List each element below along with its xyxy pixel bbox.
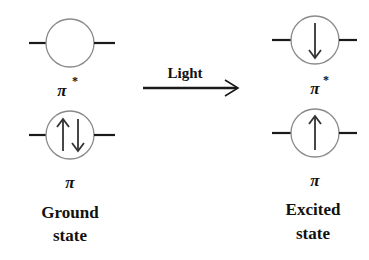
pi-symbol: π [310, 79, 319, 98]
ground-pi-label: π [60, 174, 80, 191]
excited-pi-orbital [272, 109, 357, 157]
ground-pi-orbital [29, 111, 115, 159]
electron-spin-down-icon [309, 23, 321, 58]
pi-symbol: π [57, 81, 66, 100]
excited-state-title-line2: state [273, 225, 353, 242]
orbital-circle [46, 111, 94, 159]
ground-state-title-line2: state [30, 227, 110, 244]
electron-spin-down-icon [72, 119, 84, 151]
excited-pi-label: π [305, 172, 325, 189]
light-arrow [143, 80, 238, 96]
ground-pi-star-superscript: * [72, 75, 78, 87]
electron-spin-up-icon [57, 119, 69, 151]
excited-pi-star-superscript: * [323, 74, 329, 86]
ground-state-title-line1: Ground [30, 204, 110, 221]
ground-pi-star-label: π [52, 82, 72, 99]
light-label: Light [150, 66, 220, 81]
electron-spin-up-icon [309, 116, 321, 150]
excited-state-title-line1: Excited [273, 201, 353, 218]
excited-pi-star-orbital [272, 16, 357, 64]
orbital-diagram: Light π * π Ground state π * π Excited s… [0, 0, 369, 260]
ground-pi-star-orbital [29, 19, 115, 67]
excited-pi-star-label: π [305, 80, 325, 97]
orbital-circle [46, 19, 94, 67]
